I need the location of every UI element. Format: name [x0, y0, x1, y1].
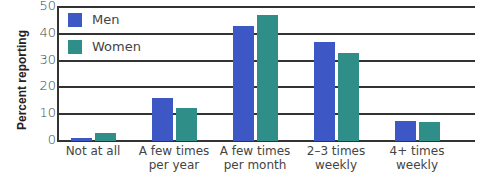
- y-tick-30: 30: [38, 52, 56, 67]
- legend-label-women: Women: [92, 39, 141, 54]
- legend-item-women: Women: [68, 39, 147, 54]
- bar-chart: Percent reporting 01020304050 Not at all…: [0, 0, 480, 181]
- legend-swatch-women: [68, 40, 82, 54]
- legend-item-men: Men: [68, 12, 125, 27]
- bar-men-1: [152, 98, 173, 141]
- bar-men-3: [314, 42, 335, 141]
- legend-label-men: Men: [92, 12, 119, 27]
- y-tick-10: 10: [38, 105, 56, 120]
- y-tick-20: 20: [38, 78, 56, 93]
- bar-men-0: [71, 138, 92, 141]
- bar-women-3: [338, 53, 359, 141]
- bar-women-2: [257, 15, 278, 141]
- x-category-label: A few timesper month: [210, 144, 300, 172]
- x-category-label: Not at all: [48, 144, 138, 158]
- x-category-label: 2–3 timesweekly: [291, 144, 381, 172]
- y-axis-label-text: Percent reporting: [15, 30, 29, 130]
- y-tick-40: 40: [38, 25, 56, 40]
- bar-women-4: [419, 122, 440, 141]
- legend-swatch-men: [68, 13, 82, 27]
- bar-women-1: [176, 108, 197, 142]
- bar-women-0: [95, 133, 116, 141]
- x-category-label: 4+ timesweekly: [372, 144, 462, 172]
- bar-men-2: [233, 26, 254, 141]
- bar-men-4: [395, 121, 416, 141]
- gridline-50: [57, 6, 475, 8]
- y-axis-line: [57, 7, 59, 142]
- y-tick-50: 50: [38, 0, 56, 13]
- y-axis-label: Percent reporting: [2, 20, 42, 140]
- x-category-label: A few timesper year: [129, 144, 219, 172]
